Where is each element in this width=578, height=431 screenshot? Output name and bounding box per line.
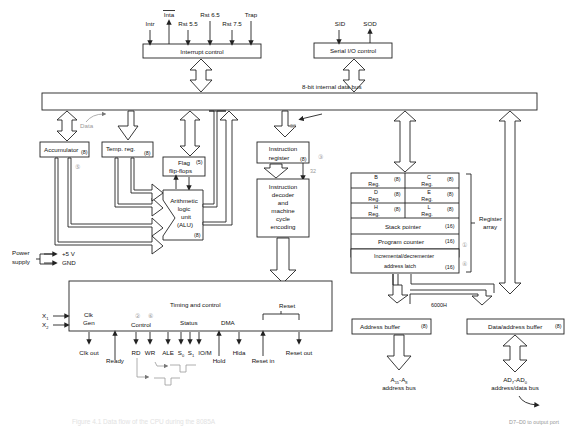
- reg-c-sub: Reg.: [421, 181, 432, 187]
- ready-label: Ready: [106, 357, 125, 364]
- reg-b-sub: Reg.: [368, 181, 379, 187]
- addr-6000-annotation: 6000H: [431, 302, 447, 308]
- power-label-2: supply: [12, 258, 31, 265]
- decoder-label-1: Instruction: [269, 183, 298, 190]
- hold-label: Hold: [213, 357, 226, 364]
- program-counter-size: (16): [445, 238, 455, 244]
- rst65-label: Rst 6.5: [200, 11, 220, 18]
- sid-label: SID: [335, 20, 346, 27]
- data-annotation: Data: [80, 122, 94, 129]
- rd-label: RD: [132, 349, 141, 356]
- step4-marker: ④: [462, 260, 467, 267]
- trap-label: Trap: [245, 11, 258, 18]
- address-buffer-size: (8): [421, 323, 428, 329]
- reg-h-sub: Reg.: [368, 211, 379, 217]
- alu-to-bus-path-2: [203, 111, 238, 225]
- reg-e-name: E: [427, 189, 431, 195]
- stack-pointer-size: (16): [445, 223, 455, 229]
- reset-in-label: Reset in: [252, 357, 275, 364]
- reg-l-size: (8): [447, 206, 454, 212]
- flags-label-1: Flag: [178, 159, 191, 166]
- decoder-label-4: machine: [271, 207, 295, 214]
- n32-annotation-b: 32: [310, 168, 316, 174]
- address-bus-arrow: [387, 335, 411, 370]
- reg-h-name: H: [374, 204, 378, 210]
- ale-label: ALE: [162, 349, 174, 356]
- alu-label-1: Arithmetic: [170, 197, 198, 204]
- register-array-label-1: Register: [479, 215, 502, 222]
- flags-bus-arrow: [180, 111, 200, 156]
- sod-label: SOD: [363, 20, 377, 27]
- n32-annotation-a: 32: [290, 123, 296, 129]
- gnd-label: GND: [62, 259, 76, 266]
- status-label: Status: [180, 319, 198, 326]
- inta-label: Inta: [164, 11, 175, 18]
- x2-label: X2: [42, 321, 49, 330]
- stack-pointer-label: Stack pointer: [385, 223, 421, 230]
- instr-reg-label-1: Instruction: [269, 145, 298, 152]
- alu-label-2: logic: [178, 205, 191, 212]
- instr-to-decoder-arrow: [264, 164, 288, 178]
- decoder-label-6: encoding: [270, 223, 296, 230]
- reg-c-name: C: [427, 174, 431, 180]
- temp-reg-bus-arrow: [118, 111, 138, 140]
- latch-label-1: Incremental/decrementer: [374, 253, 434, 259]
- data-buffer-label: Data/address buffer: [488, 323, 542, 330]
- data-bus-label: address/data bus: [491, 384, 538, 391]
- serial-io-block: Serial I/O control SID SOD: [314, 20, 392, 58]
- reset-label: Reset: [279, 302, 295, 309]
- reg-d-sub: Reg.: [368, 196, 379, 202]
- interrupt-control-block: Interrupt control Intr Inta Rst 5.5 Rst …: [143, 11, 261, 59]
- reg-c-size: (8): [447, 176, 454, 182]
- output-port-annotation: D7–D0 to output port: [509, 419, 560, 425]
- accumulator-size: (8): [81, 149, 88, 155]
- power-supply: Power supply +5 V GND: [12, 249, 76, 266]
- decoder-label-3: and: [278, 199, 289, 206]
- intr-label: Intr: [146, 20, 155, 27]
- wr-label: WR: [145, 349, 156, 356]
- clk-out-label: Clk out: [79, 349, 99, 356]
- register-bus-arrow: [394, 111, 416, 172]
- register-array: B Reg. (8) C Reg. (8) D Reg. (8) E Reg. …: [351, 173, 459, 273]
- timing-title: Timing and control: [170, 301, 221, 308]
- x1-label: X1: [42, 312, 49, 321]
- reg-b-name: B: [374, 174, 378, 180]
- serial-io-label: Serial I/O control: [330, 47, 376, 54]
- reg-d-name: D: [374, 189, 378, 195]
- reg-l-name: L: [428, 204, 431, 210]
- iom-label: IO/M: [198, 349, 211, 356]
- s0-label: S0: [178, 349, 185, 358]
- dma-label: DMA: [221, 319, 236, 326]
- step2-marker: ②: [135, 312, 140, 319]
- control-label: Control: [131, 321, 151, 328]
- bus-to-data-buffer-arrow: [499, 111, 521, 294]
- temp-reg-size: (8): [144, 150, 151, 156]
- flags-size: (5): [196, 159, 203, 165]
- decoder-to-timing-arrow: [270, 238, 296, 283]
- register-array-bracket: [466, 174, 475, 272]
- address-buffer-label: Address buffer: [360, 323, 400, 330]
- reg-h-size: (8): [394, 206, 401, 212]
- latch-to-data-buffer-arrow: [410, 290, 492, 305]
- reg-e-size: (8): [447, 191, 454, 197]
- rst75-label: Rst 7.5: [222, 20, 242, 27]
- step1-marker: ①: [462, 241, 467, 248]
- hlda-label: Hlda: [233, 349, 246, 356]
- interrupt-control-label: Interrupt control: [180, 48, 223, 55]
- temp-reg-label: Temp. reg.: [106, 145, 136, 152]
- figure-caption: Figure 4.1 Data flow of the CPU during t…: [72, 418, 216, 426]
- address-bus-label: address bus: [382, 384, 416, 391]
- 8085-architecture-diagram: Interrupt control Intr Inta Rst 5.5 Rst …: [0, 0, 578, 431]
- reg-b-size: (8): [394, 176, 401, 182]
- reg-e-sub: Reg.: [421, 196, 432, 202]
- alu-label-3: unit: [181, 213, 191, 220]
- reg-l-sub: Reg.: [421, 211, 432, 217]
- accumulator-bus-arrow: [57, 111, 77, 141]
- s1-label: S1: [188, 349, 195, 358]
- decoder-label-2: decoder: [272, 191, 294, 198]
- step6-marker: ⑥: [148, 312, 153, 319]
- plus-5v-label: +5 V: [62, 250, 76, 257]
- alu-to-bus-path: [203, 111, 226, 207]
- program-counter-label: Program counter: [378, 238, 424, 245]
- reset-out-label: Reset out: [286, 349, 313, 356]
